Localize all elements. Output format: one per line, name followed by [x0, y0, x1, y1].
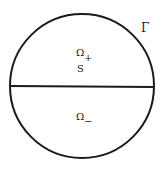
lower-region-subscript: −	[84, 116, 92, 127]
interface-label: S	[77, 63, 84, 74]
boundary-label: Γ	[141, 21, 149, 35]
upper-region-subscript: +	[84, 52, 92, 63]
interface-line	[10, 86, 154, 87]
domain-diagram: Γ Ω + S Ω −	[0, 0, 165, 171]
